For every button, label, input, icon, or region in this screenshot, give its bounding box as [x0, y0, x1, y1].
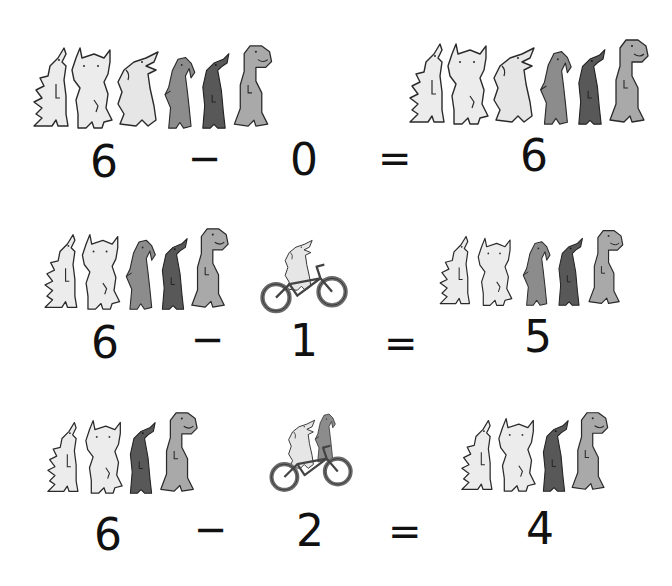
- bicycle-icon: [256, 257, 354, 315]
- minuend: 6: [94, 513, 122, 557]
- stegosaurus-icon: [454, 417, 498, 493]
- trex-icon: [230, 42, 274, 130]
- trex-icon: [568, 409, 610, 493]
- duckbill-dark-dino-icon: [196, 50, 232, 130]
- stegosaurus-icon: [38, 231, 82, 311]
- triceratops-icon: [78, 231, 124, 311]
- dino-group-result: [432, 217, 626, 307]
- trex-icon: [156, 409, 200, 495]
- duckbill-dark-dino-icon: [552, 235, 586, 307]
- trex-icon: [606, 36, 650, 126]
- duckbill-dark-dino-icon: [124, 419, 158, 495]
- dino-group-start: [40, 409, 200, 495]
- subtrahend: 2: [296, 509, 324, 553]
- minuend: 6: [91, 321, 119, 365]
- equals-sign: =: [388, 511, 422, 551]
- duckbill-dark-dino-icon: [572, 46, 608, 126]
- stegosaurus-icon: [40, 419, 84, 495]
- equals-sign: =: [384, 323, 418, 363]
- trex-icon: [188, 225, 230, 311]
- minus-sign: −: [188, 138, 222, 178]
- dino-group-result: [454, 407, 610, 493]
- result: 6: [520, 134, 548, 178]
- stegosaurus-icon: [432, 233, 476, 307]
- leaving-on-bike: [262, 409, 360, 493]
- dino-group-result: [404, 32, 650, 126]
- minus-sign: −: [191, 319, 225, 359]
- minuend: 6: [90, 140, 118, 184]
- subtrahend: 0: [290, 138, 318, 182]
- triceratops-icon: [494, 415, 540, 493]
- duckbill-dark-dino-icon: [538, 417, 570, 493]
- dino-group-start: [38, 221, 230, 311]
- equation-row-2: 6 − 1 = 5: [0, 195, 672, 385]
- equation-row-1: 6 − 0 = 6: [0, 0, 672, 195]
- equation-row-3: 6 − 2 = 4: [0, 385, 672, 586]
- subtrahend: 1: [290, 319, 318, 363]
- trex-icon: [584, 227, 626, 307]
- equals-sign: =: [378, 138, 412, 178]
- minus-sign: −: [194, 509, 228, 549]
- duckbill-light-dino-icon: [112, 44, 162, 130]
- leaving-on-bike: [256, 235, 354, 313]
- parrotbeak-dino-icon: [534, 44, 574, 126]
- bicycle-icon: [266, 437, 358, 495]
- triceratops-icon: [68, 44, 116, 130]
- stegosaurus-icon: [28, 44, 72, 130]
- parrotbeak-dino-icon: [120, 233, 158, 311]
- result: 4: [526, 507, 554, 551]
- duckbill-light-dino-icon: [488, 40, 538, 126]
- triceratops-icon: [80, 417, 128, 495]
- triceratops-icon: [444, 40, 492, 126]
- result: 5: [524, 315, 552, 359]
- parrotbeak-dino-icon: [158, 50, 198, 130]
- duckbill-dark-dino-icon: [156, 235, 190, 311]
- parrotbeak-dino-icon: [516, 235, 554, 307]
- stegosaurus-icon: [404, 40, 448, 126]
- triceratops-icon: [472, 235, 518, 307]
- dino-group-start: [28, 38, 274, 130]
